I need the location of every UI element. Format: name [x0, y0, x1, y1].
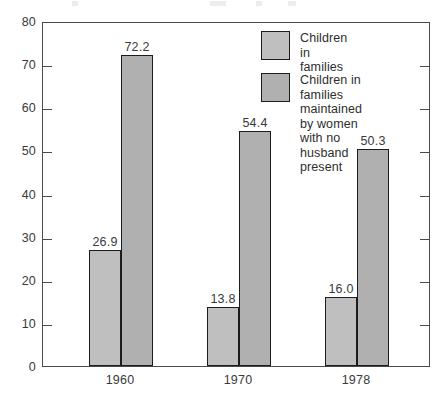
bar-value-label: 16.0	[328, 282, 353, 296]
x-axis-tick-label: 1960	[106, 373, 135, 387]
bar-value-label: 26.9	[92, 235, 117, 249]
bar-1960-women-no-husband	[121, 55, 153, 366]
legend-swatch-icon	[261, 31, 290, 60]
y-axis-tick-label: 50	[22, 144, 36, 158]
bar-value-label: 13.8	[210, 292, 235, 306]
y-axis-tick-mark-right	[420, 152, 429, 153]
y-axis-tick-mark	[43, 152, 52, 153]
y-axis-tick-mark	[43, 282, 52, 283]
bar-1978-children-in-families	[325, 297, 357, 366]
bar-value-label: 50.3	[360, 134, 385, 148]
legend-swatch-icon	[261, 73, 290, 102]
y-axis-tick-mark	[43, 325, 52, 326]
y-axis-tick-label: 70	[22, 58, 36, 72]
legend-entry-women-no-husband: Children in families maintained by women…	[261, 73, 362, 175]
y-axis-tick-label: 60	[22, 101, 36, 115]
y-axis-tick-mark-right	[420, 196, 429, 197]
y-axis-tick-label: 20	[22, 274, 36, 288]
y-axis-tick-label: 30	[22, 231, 36, 245]
bar-chart-figure: 80 70 60 50 40 30 20 10 0	[0, 0, 444, 394]
y-axis-tick-mark	[43, 66, 52, 67]
x-axis-tick-label: 1970	[224, 373, 253, 387]
y-axis-tick-mark-right	[420, 282, 429, 283]
y-axis-tick-mark	[43, 109, 52, 110]
y-axis-tick-mark	[43, 239, 52, 240]
scan-artifact	[60, 1, 310, 6]
y-axis-tick-mark-right	[420, 109, 429, 110]
bar-value-label: 72.2	[124, 40, 149, 54]
bar-1970-children-in-families	[207, 307, 239, 367]
legend-entry-children-in-families: Children in families	[261, 31, 347, 75]
y-axis-tick-label: 80	[22, 15, 36, 29]
y-axis-tick-mark	[43, 196, 52, 197]
legend-label: Children in families	[300, 31, 347, 75]
y-axis-tick-label: 40	[22, 188, 36, 202]
bar-1960-children-in-families	[89, 250, 121, 366]
legend-label: Children in families maintained by women…	[300, 73, 362, 175]
y-axis-labels: 80 70 60 50 40 30 20 10 0	[0, 22, 36, 367]
y-axis-tick-label: 0	[29, 360, 36, 374]
plot-area: 26.9 72.2 13.8 54.4 16.0 50.3 Children i…	[42, 22, 430, 367]
y-axis-tick-mark-right	[420, 239, 429, 240]
x-axis-tick-label: 1978	[342, 373, 371, 387]
y-axis-tick-label: 10	[22, 317, 36, 331]
bar-1978-women-no-husband	[357, 149, 389, 366]
y-axis-tick-mark-right	[420, 66, 429, 67]
y-axis-tick-mark-right	[420, 325, 429, 326]
